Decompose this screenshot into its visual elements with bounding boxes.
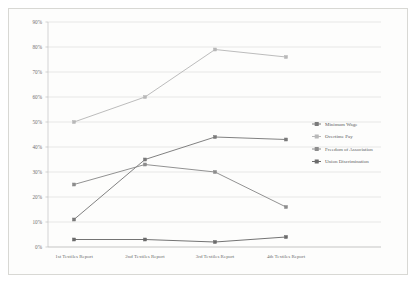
data-point-marker	[73, 218, 76, 221]
y-tick-label: 90%	[32, 19, 42, 25]
series-line	[74, 237, 286, 242]
y-tick-label: 60%	[32, 94, 42, 100]
data-point-marker	[73, 183, 76, 186]
y-tick-label: 50%	[32, 119, 42, 125]
legend-swatch-marker	[315, 160, 318, 163]
legend-swatch-marker	[315, 123, 318, 126]
x-tick-label: 4th Textiles Report	[267, 254, 306, 259]
legend-label: Union Discrimination	[325, 159, 369, 164]
x-axis-tick-labels: 1st Textiles Report2nd Textiles Report3r…	[55, 254, 306, 259]
legend-swatch-marker	[315, 148, 318, 151]
data-point-marker	[144, 163, 147, 166]
data-point-marker	[214, 241, 217, 244]
y-tick-label: 30%	[32, 169, 42, 175]
x-tick-label: 3rd Textiles Report	[196, 254, 235, 259]
legend-label: Minimum Wage	[325, 122, 358, 127]
data-point-marker	[144, 158, 147, 161]
y-tick-label: 40%	[32, 144, 42, 150]
data-point-marker	[285, 56, 288, 59]
series-line	[74, 137, 286, 220]
series-line	[74, 165, 286, 208]
y-tick-label: 20%	[32, 194, 42, 200]
legend-swatch-marker	[315, 135, 318, 138]
legend-label: Overtime Pay	[325, 134, 353, 139]
data-point-marker	[285, 206, 288, 209]
data-point-marker	[73, 238, 76, 241]
y-tick-label: 80%	[32, 44, 42, 50]
y-tick-label: 0%	[35, 244, 43, 250]
data-point-marker	[214, 48, 217, 51]
plot-area: 90%80%70%60%50%40%30%20%10%0% 1st Textil…	[0, 0, 416, 283]
data-point-marker	[144, 96, 147, 99]
series-line	[74, 50, 286, 123]
y-axis-tick-labels: 90%80%70%60%50%40%30%20%10%0%	[32, 19, 42, 250]
chart-legend: Minimum WageOvertime PayFreedom of Assoc…	[312, 122, 373, 164]
y-tick-label: 10%	[32, 219, 42, 225]
data-point-marker	[144, 238, 147, 241]
legend-label: Freedom of Association	[325, 147, 373, 152]
x-tick-label: 1st Textiles Report	[55, 254, 93, 259]
chart-root: 90%80%70%60%50%40%30%20%10%0% 1st Textil…	[0, 0, 416, 283]
series-group	[73, 48, 288, 244]
data-point-marker	[285, 138, 288, 141]
y-tick-label: 70%	[32, 69, 42, 75]
line-chart-svg: 90%80%70%60%50%40%30%20%10%0% 1st Textil…	[0, 0, 416, 283]
data-point-marker	[214, 171, 217, 174]
data-point-marker	[214, 136, 217, 139]
data-point-marker	[285, 236, 288, 239]
x-tick-label: 2nd Textiles Report	[125, 254, 165, 259]
data-point-marker	[73, 121, 76, 124]
